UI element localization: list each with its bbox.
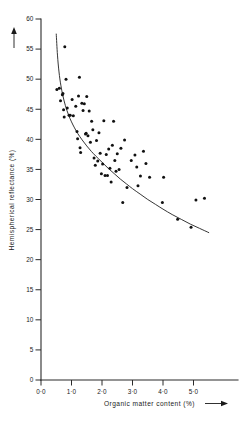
data-point <box>74 105 77 108</box>
data-point <box>76 137 79 140</box>
data-point <box>96 159 99 162</box>
x-axis-title: Organic matter content (%) <box>104 400 195 408</box>
y-tick-label: 0 <box>30 376 34 383</box>
data-point <box>133 153 136 156</box>
data-point <box>102 119 105 122</box>
y-tick-label: 60 <box>26 15 34 22</box>
data-point <box>58 87 61 90</box>
y-axis-arrow-icon <box>11 27 17 48</box>
data-point <box>161 201 164 204</box>
data-point <box>65 78 68 81</box>
data-point <box>123 138 126 141</box>
y-tick-label: 45 <box>26 106 34 113</box>
data-point <box>194 199 197 202</box>
y-axis-title: Hemispherical reflectance (%) <box>8 150 16 251</box>
data-point <box>85 95 88 98</box>
data-point <box>148 176 151 179</box>
data-point <box>162 176 165 179</box>
x-tick-label: 3·0 <box>128 388 138 395</box>
y-tick-label: 55 <box>26 45 34 52</box>
data-point <box>91 128 94 131</box>
y-tick-label: 30 <box>26 196 34 203</box>
data-point <box>100 172 103 175</box>
data-point <box>118 168 121 171</box>
data-point <box>72 114 75 117</box>
data-point <box>79 151 82 154</box>
data-point <box>101 163 104 166</box>
data-point <box>116 152 119 155</box>
data-point <box>115 170 118 173</box>
data-point <box>106 174 109 177</box>
data-point <box>105 153 108 156</box>
data-point <box>139 175 142 178</box>
data-point-group <box>55 45 206 229</box>
x-tick-label: 5·0 <box>189 388 199 395</box>
data-point <box>63 45 66 48</box>
data-point <box>121 201 124 204</box>
data-point <box>61 92 64 95</box>
data-point <box>144 162 147 165</box>
y-tick-label: 25 <box>26 226 34 233</box>
x-axis-title-group: Organic matter content (%) <box>104 400 228 408</box>
data-point <box>136 184 139 187</box>
data-point <box>176 218 179 221</box>
data-point <box>79 146 82 149</box>
data-point <box>88 110 91 113</box>
data-point <box>113 159 116 162</box>
y-axis-title-group: Hemispherical reflectance (%) <box>8 27 17 251</box>
x-axis-arrow-icon <box>205 401 228 407</box>
data-point <box>86 134 89 137</box>
data-point <box>119 147 122 150</box>
y-axis-ticks: 051015202530354045505560 <box>26 15 41 383</box>
data-point <box>99 152 102 155</box>
data-point <box>85 132 88 135</box>
y-tick-label: 50 <box>26 75 34 82</box>
data-point <box>97 131 100 134</box>
data-point <box>135 166 138 169</box>
data-point <box>93 156 96 159</box>
data-point <box>77 95 80 98</box>
data-point <box>108 167 111 170</box>
data-point <box>71 98 74 101</box>
data-point <box>112 120 115 123</box>
x-axis-ticks: 0·01·02·03·04·05·0 <box>36 380 198 395</box>
data-point <box>90 120 93 123</box>
fitted-regression-curve <box>56 34 209 233</box>
y-tick-label: 10 <box>26 316 34 323</box>
data-point <box>69 114 72 117</box>
data-point <box>142 150 145 153</box>
data-point <box>59 99 62 102</box>
x-tick-label: 1·0 <box>67 388 77 395</box>
data-point <box>110 181 113 184</box>
data-point <box>130 159 133 162</box>
y-tick-label: 20 <box>26 256 34 263</box>
data-point <box>203 197 206 200</box>
data-point <box>63 116 66 119</box>
data-point <box>83 102 86 105</box>
data-point <box>82 109 85 112</box>
y-tick-label: 35 <box>26 166 34 173</box>
y-tick-label: 40 <box>26 136 34 143</box>
data-point <box>62 108 65 111</box>
data-point <box>111 144 114 147</box>
chart-figure: 051015202530354045505560 0·01·02·03·04·0… <box>0 0 245 423</box>
data-point <box>190 226 193 229</box>
x-tick-label: 4·0 <box>158 388 168 395</box>
data-point <box>95 139 98 142</box>
data-point <box>66 107 69 110</box>
x-tick-label: 0·0 <box>36 388 46 395</box>
data-point <box>78 76 81 79</box>
data-point <box>89 141 92 144</box>
data-point <box>75 130 78 133</box>
y-tick-label: 5 <box>30 346 34 353</box>
x-tick-label: 2·0 <box>97 388 107 395</box>
data-point <box>94 164 97 167</box>
data-point <box>107 147 110 150</box>
y-tick-label: 15 <box>26 286 34 293</box>
data-point <box>126 186 129 189</box>
scatter-plot: 051015202530354045505560 0·01·02·03·04·0… <box>0 0 245 423</box>
plot-axes <box>41 19 238 380</box>
